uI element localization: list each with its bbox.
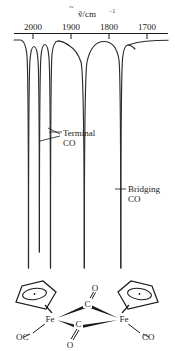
- atom-label-co-right-terminal: CO: [142, 332, 155, 342]
- axis-tick-label-2000: 2000: [24, 22, 43, 32]
- atom-label-c-bridge-bottom: C: [75, 319, 81, 329]
- wavenumber-tilde-icon: ~: [69, 3, 74, 12]
- atom-label-o-bridge-bottom: O: [67, 340, 74, 350]
- atom-label-fe-right: Fe: [120, 314, 129, 324]
- bridging-co-label-line2: CO: [128, 194, 141, 204]
- axis-label-exponent: −1: [109, 8, 115, 14]
- axis-tick-label-1800: 1800: [100, 22, 119, 32]
- atom-label-fe-left: Fe: [46, 314, 55, 324]
- terminal-co-label-line1: Terminal: [63, 128, 96, 138]
- bridging-co-label-line1: Bridging: [128, 184, 161, 194]
- atom-label-o-bridge-top: O: [92, 283, 99, 293]
- atom-label-c-bridge-top: C: [84, 299, 90, 309]
- ir-spectrum-figure: ṽ/cm −1 ~ 2000 1900 1800 1700 Ter: [0, 0, 175, 351]
- atom-label-oc-left-terminal: OC: [16, 332, 29, 342]
- axis-tick-label-1700: 1700: [138, 22, 157, 32]
- axis-label: ṽ/cm: [78, 9, 96, 19]
- axis-tick-label-1900: 1900: [62, 22, 81, 32]
- ring-centroid-dot-right: [139, 293, 141, 295]
- terminal-co-label-line2: CO: [63, 138, 76, 148]
- ring-centroid-dot-left: [34, 293, 36, 295]
